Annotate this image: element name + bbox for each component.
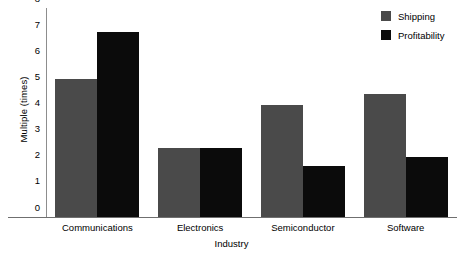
bar-chart: Multiple (times) 012345678 Communication… xyxy=(0,0,463,256)
legend-item-profitability: Profitability xyxy=(381,27,444,43)
legend-swatch-icon xyxy=(381,11,391,21)
y-tick-label: 1 xyxy=(35,177,40,187)
x-axis-title: Industry xyxy=(0,238,463,249)
chart-legend: ShippingProfitability xyxy=(381,8,444,46)
legend-swatch-icon xyxy=(381,30,391,40)
bar-shipping-communications xyxy=(55,79,97,217)
bar-shipping-semiconductor xyxy=(261,105,303,217)
legend-label: Profitability xyxy=(398,30,444,41)
bar-shipping-software xyxy=(364,94,406,217)
x-tick-label: Software xyxy=(387,222,425,233)
y-tick-label: 4 xyxy=(35,98,40,108)
bar-profitability-software xyxy=(406,157,448,217)
bar-profitability-semiconductor xyxy=(303,166,345,217)
legend-item-shipping: Shipping xyxy=(381,8,444,24)
bar-profitability-electronics xyxy=(200,148,242,217)
bar-group xyxy=(261,8,345,217)
bar-group xyxy=(55,8,139,217)
x-tick-label: Electronics xyxy=(177,222,223,233)
y-tick-label: 0 xyxy=(35,203,40,213)
y-tick-label: 3 xyxy=(35,124,40,134)
y-tick-label: 7 xyxy=(35,20,40,30)
bar-shipping-electronics xyxy=(158,148,200,217)
x-axis-line xyxy=(8,217,457,218)
x-tick-label: Semiconductor xyxy=(271,222,334,233)
y-tick-label: 5 xyxy=(35,72,40,82)
y-axis-title: Multiple (times) xyxy=(18,40,29,180)
y-tick-label: 6 xyxy=(35,46,40,56)
x-tick-label: Communications xyxy=(62,222,133,233)
legend-label: Shipping xyxy=(398,11,435,22)
bar-group xyxy=(158,8,242,217)
bar-profitability-communications xyxy=(97,32,139,217)
y-tick-label: 2 xyxy=(35,151,40,161)
y-tick-label: 8 xyxy=(35,0,40,3)
